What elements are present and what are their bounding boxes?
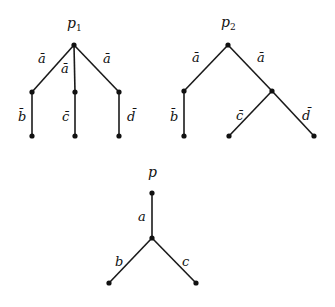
edge-p2-a-right bbox=[228, 45, 272, 91]
tree-p1: p1 ā ā ā b̄ c̄ d̄ bbox=[18, 15, 137, 139]
node-p2-child-right bbox=[269, 88, 274, 93]
tree-p1-title: p1 bbox=[67, 15, 82, 33]
tree-p2: p2 ā ā b̄ c̄ d̄ bbox=[170, 14, 317, 139]
node-p1-root bbox=[71, 42, 76, 47]
node-p1-child-3 bbox=[116, 89, 121, 94]
label-p2-b: b̄ bbox=[170, 108, 178, 124]
edge-p1-a-mid bbox=[74, 45, 75, 92]
label-p1-d: d̄ bbox=[127, 108, 137, 124]
node-p1-leaf-2 bbox=[72, 133, 77, 138]
label-p2-d: d̄ bbox=[302, 107, 312, 123]
label-p1-a-mid: ā bbox=[61, 61, 69, 76]
node-p2-leaf-2 bbox=[226, 133, 231, 138]
label-p1-a-right: ā bbox=[103, 51, 111, 66]
label-p-b: b bbox=[115, 254, 123, 269]
node-p-center bbox=[149, 235, 154, 240]
node-p-leaf-left bbox=[106, 280, 111, 285]
label-p-c: c bbox=[182, 254, 190, 269]
node-p1-child-2 bbox=[72, 89, 77, 94]
node-p2-leaf-1 bbox=[181, 133, 186, 138]
tree-p-title: p bbox=[148, 164, 157, 180]
label-p1-c: c̄ bbox=[62, 109, 70, 124]
node-p2-leaf-3 bbox=[311, 133, 316, 138]
edge-p2-a-left bbox=[184, 45, 228, 91]
tree-p: p a b c bbox=[106, 164, 198, 286]
label-p-a: a bbox=[138, 209, 146, 224]
edge-p1-a-right bbox=[74, 45, 119, 92]
label-p2-c: c̄ bbox=[236, 108, 244, 123]
node-p2-child-left bbox=[181, 88, 186, 93]
node-p1-child-1 bbox=[29, 89, 34, 94]
node-p-root bbox=[149, 190, 154, 195]
tree-p2-title: p2 bbox=[221, 14, 236, 32]
label-p2-a-right: ā bbox=[257, 50, 265, 65]
node-p-leaf-right bbox=[193, 280, 198, 285]
node-p1-leaf-1 bbox=[29, 133, 34, 138]
label-p1-a-left: ā bbox=[38, 51, 46, 66]
node-p2-root bbox=[225, 42, 230, 47]
process-trees-diagram: p1 ā ā ā b̄ c̄ d̄ p2 ā ā b̄ bbox=[0, 0, 335, 307]
edge-p-c bbox=[152, 238, 196, 283]
label-p2-a-left: ā bbox=[192, 50, 200, 65]
node-p1-leaf-3 bbox=[116, 133, 121, 138]
label-p1-b: b̄ bbox=[18, 108, 26, 124]
